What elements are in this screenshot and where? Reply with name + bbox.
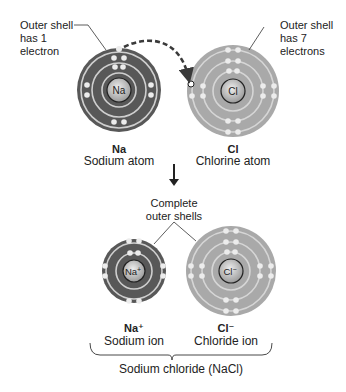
sodium-ion-name: Sodium ion <box>104 335 164 348</box>
sodium-atom-name: Sodium atom <box>84 155 155 168</box>
chlorine-callout-line <box>249 27 264 50</box>
sodium-atom: Na <box>77 46 161 132</box>
sodium-outer-shell-callout: Outer shell has 1 electron <box>20 19 73 58</box>
ionic-bond-diagram: Na Cl <box>0 0 346 392</box>
compound-label: Sodium chloride (NaCl) <box>119 363 243 376</box>
complete-shells-lines <box>154 222 196 244</box>
chlorine-atom-name: Chlorine atom <box>196 155 271 168</box>
svg-text:Cl: Cl <box>228 86 237 97</box>
chloride-ion: Cl− <box>186 226 276 316</box>
reaction-arrow <box>169 164 179 186</box>
complete-shells-callout: Complete outer shells <box>146 197 202 223</box>
svg-text:Na: Na <box>113 85 126 96</box>
chlorine-outer-shell-callout: Outer shell has 7 electrons <box>280 19 333 58</box>
chloride-ion-name: Chloride ion <box>194 335 258 348</box>
chlorine-atom: Cl <box>187 45 279 137</box>
sodium-callout-line <box>74 25 106 50</box>
sodium-ion: Na+ <box>102 238 166 304</box>
